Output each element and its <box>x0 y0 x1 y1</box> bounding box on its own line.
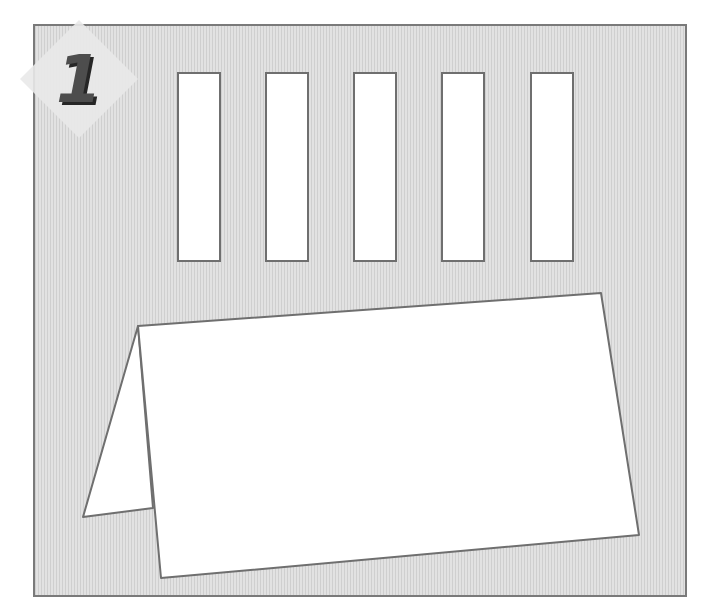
step-badge: 1 <box>20 20 138 138</box>
step-number: 1 <box>20 20 138 138</box>
tent-card-front-panel <box>138 293 639 578</box>
